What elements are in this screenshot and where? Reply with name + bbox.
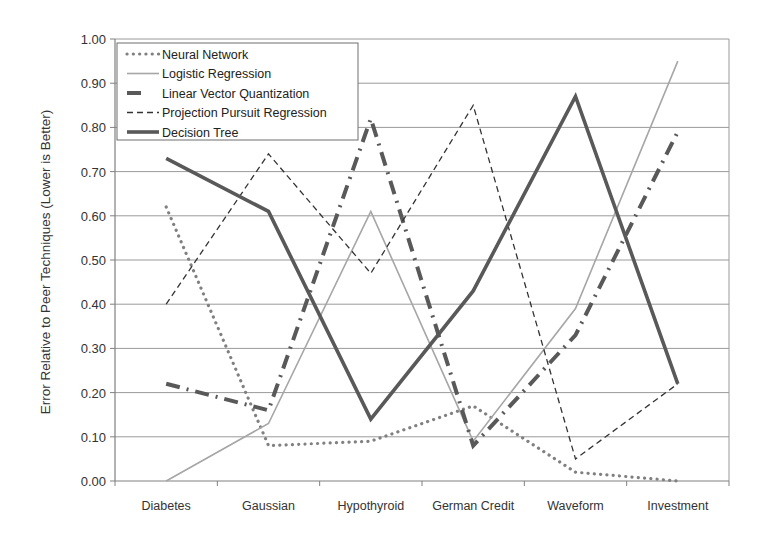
y-tick-label: 0.90 (81, 76, 106, 91)
y-tick-label: 0.00 (81, 474, 106, 489)
y-tick-label: 0.40 (81, 297, 106, 312)
legend-label: Neural Network (162, 48, 249, 62)
legend-label: Linear Vector Quantization (162, 87, 309, 101)
series-decision-tree (166, 97, 678, 420)
x-category-label: Gaussian (242, 499, 295, 513)
y-tick-label: 1.00 (81, 32, 106, 47)
y-tick-label: 0.20 (81, 386, 106, 401)
y-axis-title: Error Relative to Peer Techniques (Lower… (38, 110, 53, 414)
x-category-label: Investment (647, 499, 709, 513)
line-chart: 0.000.100.200.300.400.500.600.700.800.90… (0, 0, 763, 544)
x-category-label: German Credit (432, 499, 514, 513)
y-tick-label: 0.70 (81, 165, 106, 180)
legend: Neural NetworkLogistic RegressionLinear … (117, 43, 358, 140)
y-tick-label: 0.80 (81, 120, 106, 135)
y-tick-label: 0.30 (81, 341, 106, 356)
legend-label: Decision Tree (162, 126, 238, 140)
legend-label: Logistic Regression (162, 67, 271, 81)
x-category-label: Hypothyroid (337, 499, 404, 513)
y-tick-label: 0.10 (81, 430, 106, 445)
y-tick-label: 0.50 (81, 253, 106, 268)
y-tick-label: 0.60 (81, 209, 106, 224)
x-category-label: Diabetes (141, 499, 190, 513)
legend-label: Projection Pursuit Regression (162, 106, 327, 120)
x-category-label: Waveform (547, 499, 604, 513)
